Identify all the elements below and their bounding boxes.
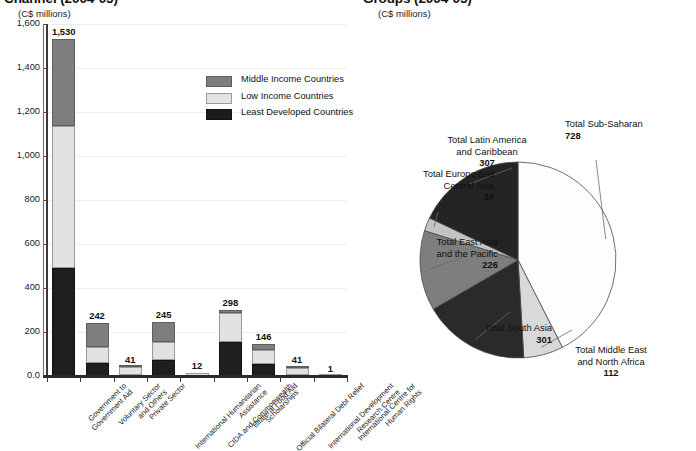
x-axis-baseline [43, 375, 348, 378]
legend-swatch-lic [206, 93, 232, 104]
bar-value-label: 41 [107, 354, 153, 365]
pie-callout-line2: and North Africa [546, 356, 676, 368]
gridline [47, 244, 347, 245]
y-axis-tick-label: 1,000 [0, 150, 40, 160]
bar-value-label: 298 [207, 297, 253, 308]
bar-segment-lic [86, 347, 109, 363]
bar-value-label: 12 [174, 360, 220, 371]
gridline [47, 156, 347, 157]
pie-slice-callout: Total Sub-Saharan728 [565, 118, 643, 141]
y-axis-tick-label: 400 [0, 282, 40, 292]
legend-swatch-mic [206, 76, 232, 87]
gridline [47, 288, 347, 289]
pie-callout-line2: and Caribbean [422, 146, 552, 158]
pie-callout-line1: Total Europe and [364, 168, 494, 180]
chart-page: Channel (2004-05) (C$ millions) 0.020040… [0, 0, 696, 451]
pie-svg [360, 0, 696, 451]
x-axis-tick-mark [314, 377, 315, 382]
pie-callout-value: 38 [364, 191, 494, 203]
x-axis-tick-mark [47, 377, 48, 382]
pie-slice-callout: Total Middle Eastand North Africa112 [546, 344, 676, 379]
bar-value-label: 245 [141, 309, 187, 320]
y-axis-tick-label: 1,600 [0, 18, 40, 28]
bar-segment-ldc [152, 360, 175, 377]
pie-callout-line1: Total Sub-Saharan [565, 118, 643, 130]
bar-segment-lic [219, 313, 242, 342]
bar-segment-lic [52, 126, 75, 268]
bar-segment-mic [86, 323, 109, 348]
bar-segment-mic [252, 344, 275, 350]
bar [86, 323, 109, 376]
pie-callout-line1: Total South Asia [422, 322, 552, 334]
pie-slice-callout: Total Latin Americaand Caribbean307 [422, 134, 552, 169]
bar-segment-lic [152, 342, 175, 360]
bar [252, 344, 275, 376]
gridline [47, 68, 347, 69]
bar [52, 39, 75, 376]
bar [219, 310, 242, 376]
legend-item-label: Middle Income Countries [241, 74, 344, 84]
bar-segment-ldc [52, 268, 75, 376]
bar-value-label: 146 [241, 331, 287, 342]
bar [152, 322, 175, 376]
bar-segment-lic [286, 368, 309, 375]
x-axis-tick-mark [147, 377, 148, 382]
bar-segment-mic [152, 322, 175, 342]
bar-chart-panel: Channel (2004-05) (C$ millions) 0.020040… [0, 0, 360, 451]
bar-segment-ldc [219, 342, 242, 376]
legend-item-label: Least Developed Countries [241, 107, 353, 117]
pie-callout-line1: Total East Asia [368, 236, 498, 248]
pie-chart-panel: Groups (2004-05) (C$ millions) Total Sub… [360, 0, 696, 451]
x-axis-tick-mark [280, 377, 281, 382]
pie-callout-line2: Central Asia [364, 180, 494, 192]
x-axis-tick-mark [347, 377, 348, 382]
y-axis-tick-label: 1,200 [0, 106, 40, 116]
y-axis-tick-label: 800 [0, 194, 40, 204]
legend-item-label: Low Income Countries [241, 91, 334, 101]
bar-segment-lic [252, 350, 275, 364]
y-axis-tick-label: 600 [0, 238, 40, 248]
x-axis-tick-mark [80, 377, 81, 382]
pie-slice-callout: Total East Asiaand the Pacific226 [368, 236, 498, 271]
bar-segment-mic [286, 366, 309, 368]
y-axis-line [46, 24, 48, 377]
bar-value-label: 1,530 [41, 26, 87, 37]
y-axis-tick-label: 1,400 [0, 62, 40, 72]
gridline [47, 200, 347, 201]
bar-segment-mic [119, 365, 142, 367]
pie-callout-line2: and the Pacific [368, 248, 498, 260]
bar-segment-mic [52, 39, 75, 126]
bar-segment-mic [219, 310, 242, 313]
bar-value-label: 1 [307, 363, 353, 374]
x-axis-tick-mark [114, 377, 115, 382]
y-axis-tick-label: 200 [0, 326, 40, 336]
x-axis-tick-mark [214, 377, 215, 382]
legend-swatch-ldc [206, 109, 232, 120]
pie-callout-value: 301 [422, 334, 552, 346]
pie-callout-line1: Total Middle East [546, 344, 676, 356]
pie-callout-value: 728 [565, 130, 643, 142]
y-axis-line-outer [43, 24, 44, 377]
pie-slice-callout: Total South Asia301 [422, 322, 552, 345]
pie-callout-value: 226 [368, 259, 498, 271]
pie-callout-value: 112 [546, 367, 676, 379]
gridline [47, 24, 347, 25]
bar-chart-title: Channel (2004-05) [4, 0, 118, 6]
pie-callout-value: 307 [422, 157, 552, 169]
x-axis-tick-mark [247, 377, 248, 382]
pie-callout-line1: Total Latin America [422, 134, 552, 146]
pie-slice-callout: Total Europe andCentral Asia38 [364, 168, 494, 203]
y-axis-tick-label: 0.0 [0, 370, 40, 380]
bar-value-label: 242 [74, 310, 120, 321]
